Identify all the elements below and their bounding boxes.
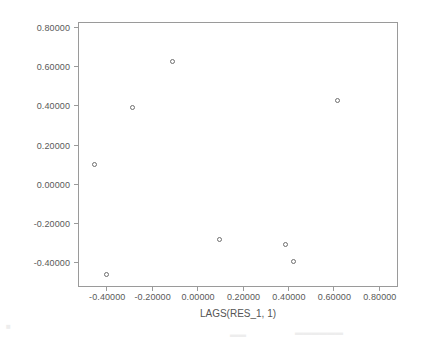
data-points-layer bbox=[79, 23, 397, 286]
data-point bbox=[217, 237, 222, 242]
data-point bbox=[130, 105, 135, 110]
x-axis-title: LAGS(RES_1, 1) bbox=[78, 308, 398, 319]
y-axis-title: Unstandardized Residual bbox=[2, 0, 16, 50]
y-axis-tick: 0.40000 bbox=[74, 105, 79, 106]
data-point bbox=[104, 272, 109, 277]
x-axis-tick: -0.20000 bbox=[152, 286, 153, 291]
data-point bbox=[283, 242, 288, 247]
x-axis-tick-label: -0.20000 bbox=[135, 292, 171, 302]
x-axis-tick-label: 0.60000 bbox=[318, 292, 351, 302]
plot-area: -0.40000-0.200000.000000.200000.400000.6… bbox=[78, 22, 398, 287]
data-point bbox=[170, 59, 175, 64]
data-point bbox=[92, 162, 97, 167]
x-axis-tick: 0.60000 bbox=[333, 286, 334, 291]
y-axis-tick-label: -0.40000 bbox=[34, 258, 70, 268]
data-point bbox=[335, 98, 340, 103]
scan-artifact: ▬▬ bbox=[230, 330, 246, 339]
y-axis-tick-label: 0.60000 bbox=[37, 62, 70, 72]
y-axis-tick-label: -0.20000 bbox=[34, 219, 70, 229]
x-axis-tick-label: 0.00000 bbox=[181, 292, 214, 302]
y-axis-tick-label: 0.00000 bbox=[37, 180, 70, 190]
y-axis-tick-label: 0.40000 bbox=[37, 101, 70, 111]
scatter-chart: ■ ▬▬ ▬▬▬▬▬▬ -0.40000-0.200000.000000.200… bbox=[0, 0, 424, 342]
y-axis-tick-label: 0.20000 bbox=[37, 141, 70, 151]
y-axis-tick-label: 0.80000 bbox=[37, 23, 70, 33]
x-axis-tick-label: 0.40000 bbox=[272, 292, 305, 302]
x-axis-tick: -0.40000 bbox=[106, 286, 107, 291]
x-axis-tick: 0.80000 bbox=[379, 286, 380, 291]
y-axis-tick: 0.80000 bbox=[74, 27, 79, 28]
y-axis-tick: 0.00000 bbox=[74, 184, 79, 185]
y-axis-tick: 0.20000 bbox=[74, 145, 79, 146]
y-axis-tick: -0.40000 bbox=[74, 262, 79, 263]
scan-artifact: ▬▬▬▬▬▬ bbox=[295, 328, 343, 337]
x-axis-tick-label: 0.20000 bbox=[227, 292, 260, 302]
y-axis-tick: -0.20000 bbox=[74, 223, 79, 224]
y-axis-tick: 0.60000 bbox=[74, 66, 79, 67]
x-axis-tick: 0.20000 bbox=[243, 286, 244, 291]
x-axis-tick: 0.40000 bbox=[288, 286, 289, 291]
x-axis-tick-label: -0.40000 bbox=[89, 292, 125, 302]
data-point bbox=[291, 259, 296, 264]
x-axis-tick: 0.00000 bbox=[197, 286, 198, 291]
x-axis-tick-label: 0.80000 bbox=[363, 292, 396, 302]
scan-artifact: ■ bbox=[6, 322, 11, 331]
